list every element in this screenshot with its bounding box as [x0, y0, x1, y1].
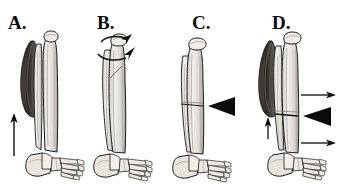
- fibula: [34, 44, 42, 150]
- displacement-arrow-upper: [301, 92, 336, 99]
- foot-skeleton: [26, 153, 84, 180]
- anatomy-figure: A.: [0, 0, 340, 196]
- foot-skeleton: [94, 154, 152, 181]
- fracture-arrowhead: [208, 97, 235, 116]
- panel-d: D.: [255, 0, 340, 196]
- panel-b-artwork: [85, 0, 170, 196]
- panel-a-artwork: [0, 0, 85, 196]
- panel-d-artwork: [255, 0, 340, 196]
- muscle-pull-arrow: [265, 117, 272, 139]
- panel-b: B.: [85, 0, 170, 196]
- tibia: [43, 31, 58, 152]
- displacement-arrow-lower: [301, 140, 336, 147]
- foot-skeleton: [173, 155, 231, 182]
- up-arrow: [10, 113, 17, 156]
- fracture-arrowhead: [303, 107, 331, 126]
- tibia: [109, 34, 127, 153]
- panel-c: C.: [170, 0, 255, 196]
- panel-c-artwork: [170, 0, 255, 196]
- panel-a: A.: [0, 0, 85, 196]
- foot-skeleton: [268, 153, 326, 180]
